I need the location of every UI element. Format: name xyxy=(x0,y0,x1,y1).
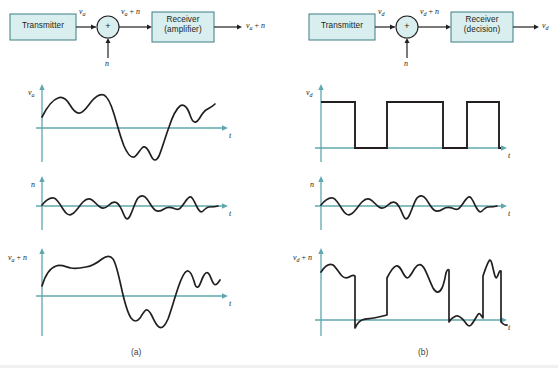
panel-digital: Transmitter Receiver (decision) + vd vd … xyxy=(279,0,558,368)
transmitter-label: Transmitter xyxy=(309,21,375,31)
receiver-label: Receiver (decision) xyxy=(451,15,513,35)
signal-label-input: vd xyxy=(378,7,385,17)
y-axis-label: n xyxy=(310,180,314,189)
x-axis-label: t xyxy=(229,299,231,308)
signal-mid-noise: n xyxy=(435,7,439,16)
block-diagram-analog: Transmitter Receiver (amplifier) + va va… xyxy=(0,0,279,72)
y-axis-label: va + n xyxy=(8,253,27,263)
signal-label-mid: vd + n xyxy=(420,7,439,17)
caption-b: (b) xyxy=(418,347,428,357)
sum-symbol: + xyxy=(103,21,113,31)
receiver-label-line2: (amplifier) xyxy=(164,25,202,34)
receiver-label-line1: Receiver xyxy=(465,15,498,24)
plot-noise-analog: n t xyxy=(0,170,279,236)
signal-label-input: va xyxy=(79,7,86,17)
x-axis-label: t xyxy=(229,131,231,140)
signal-input-sub: d xyxy=(382,11,385,17)
receiver-label-line1: Receiver xyxy=(166,15,199,24)
y-axis-label: n xyxy=(31,180,35,189)
waveform-noise xyxy=(42,196,218,219)
plot-analog-plus-noise: va + n t xyxy=(0,240,279,340)
plot-analog-signal: va t xyxy=(0,76,279,166)
caption-a: (a) xyxy=(131,347,141,357)
noise-input-label: n xyxy=(105,59,109,68)
waveform-digital-plus-noise xyxy=(321,260,507,328)
y-axis-label: va xyxy=(28,88,35,98)
panel-analog: Transmitter Receiver (amplifier) + va va… xyxy=(0,0,279,368)
signal-label-mid: va + n xyxy=(121,7,140,17)
y-axis-label: vd xyxy=(306,88,313,98)
sum-symbol: + xyxy=(402,21,412,31)
y-axis-label: vd + n xyxy=(293,253,312,263)
receiver-label-line2: (decision) xyxy=(464,25,501,34)
x-axis-label: t xyxy=(508,209,510,218)
waveform-analog-plus-noise xyxy=(42,256,220,327)
x-axis-label: t xyxy=(229,209,231,218)
plot-noise-digital: n t xyxy=(279,170,558,236)
x-axis-label: t xyxy=(508,151,510,160)
signal-out-noise: n xyxy=(261,21,265,30)
signal-mid-noise: n xyxy=(136,7,140,16)
signal-mid-op: + xyxy=(128,7,137,16)
transmitter-label: Transmitter xyxy=(10,21,76,31)
x-axis-label: t xyxy=(508,323,510,332)
signal-input-sub: a xyxy=(83,11,86,17)
waveform-analog xyxy=(42,94,215,160)
plot-digital-signal: vd t xyxy=(279,76,558,166)
receiver-label: Receiver (amplifier) xyxy=(152,15,214,35)
signal-label-output: vd xyxy=(542,21,549,31)
signal-mid-op: + xyxy=(427,7,436,16)
waveform-digital xyxy=(321,102,501,148)
signal-out-sub: d xyxy=(546,25,549,31)
signal-label-output: va + n xyxy=(246,21,265,31)
noise-input-label: n xyxy=(404,59,408,68)
plot-digital-plus-noise: vd + n t xyxy=(279,240,558,340)
block-diagram-digital: Transmitter Receiver (decision) + vd vd … xyxy=(279,0,558,72)
signal-out-op: + xyxy=(253,21,262,30)
waveform-noise xyxy=(321,196,497,219)
